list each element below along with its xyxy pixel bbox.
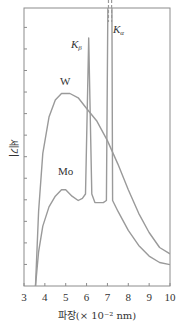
y-axis-title: 세기 [8, 139, 19, 157]
x-tick-label: 9 [146, 291, 152, 303]
series-label-mo: Mo [58, 165, 74, 177]
x-tick-label: 5 [63, 291, 69, 303]
x-tick-label: 8 [126, 291, 132, 303]
plot-frame [24, 8, 170, 286]
x-tick-label: 6 [84, 291, 90, 303]
series-curve-mo [36, 0, 171, 286]
x-tick-label: 3 [21, 291, 27, 303]
x-tick-labels: 345678910 [21, 291, 176, 303]
axis-ticks [24, 27, 170, 286]
annotation-k-beta: Kβ [70, 38, 82, 52]
kalpha-dashed-extension [108, 0, 111, 22]
series-label-w: W [60, 75, 71, 87]
x-axis-title: 파장(× 10⁻² nm) [58, 310, 137, 321]
plot-border [24, 8, 170, 286]
x-tick-label: 10 [165, 291, 177, 303]
x-tick-label: 7 [105, 291, 111, 303]
spectrum-curves [36, 0, 171, 286]
xray-spectrum-chart: W Mo Kβ Kα 345678910 파장(× 10⁻² nm) 세기 [0, 0, 180, 327]
x-tick-label: 4 [42, 291, 48, 303]
annotation-k-alpha: Kα [112, 23, 124, 37]
